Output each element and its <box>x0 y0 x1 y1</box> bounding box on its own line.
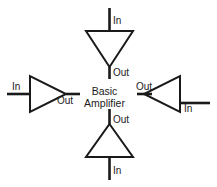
top-amplifier-triangle <box>86 31 133 67</box>
right-amplifier-input-label: In <box>184 104 192 114</box>
bottom-amplifier-triangle <box>86 124 133 157</box>
right-amplifier-output-label: Out <box>136 82 152 92</box>
top-amplifier-input-label: In <box>113 16 121 26</box>
center-caption: Basic Amplifier <box>72 85 137 109</box>
bottom-amplifier-output-label: Out <box>113 115 129 125</box>
left-amplifier-triangle <box>30 76 66 112</box>
top-amplifier-output-label: Out <box>113 68 129 78</box>
amplifier-orientations-figure: In Out In Out Out In Out In Basic Amplif… <box>0 0 217 187</box>
center-caption-line-1: Basic <box>72 85 137 97</box>
center-caption-line-2: Amplifier <box>72 97 137 109</box>
bottom-amplifier-input-label: In <box>113 166 121 176</box>
left-amplifier-input-label: In <box>12 82 20 92</box>
left-amplifier-output-label: Out <box>57 96 73 106</box>
